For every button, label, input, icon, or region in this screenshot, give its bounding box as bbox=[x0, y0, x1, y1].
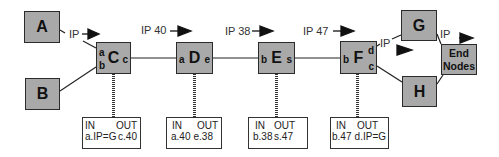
node-end-nodes: End Nodes bbox=[441, 44, 477, 75]
arrow-right-icon bbox=[82, 29, 99, 39]
arrow-right-icon bbox=[170, 26, 191, 36]
arrow-right-icon bbox=[397, 45, 412, 55]
node-g: G bbox=[401, 10, 437, 41]
node-c: C a b c bbox=[96, 42, 131, 74]
edge-a-c-2 bbox=[83, 41, 96, 48]
node-f: F b d c bbox=[340, 41, 377, 74]
arrow-right-icon bbox=[252, 26, 273, 36]
out-header: OUT bbox=[116, 120, 137, 131]
node-label: G bbox=[402, 18, 436, 34]
out-value: s.47 bbox=[274, 131, 293, 142]
node-label: End Nodes bbox=[442, 47, 476, 73]
out-value: d.IP=G bbox=[355, 131, 386, 142]
in-header: IN bbox=[172, 120, 182, 131]
port-a: a bbox=[99, 48, 105, 58]
routing-table-e: IN OUT b.38 s.47 bbox=[248, 117, 308, 149]
out-header: OUT bbox=[274, 120, 295, 131]
node-a: A bbox=[24, 11, 60, 43]
edge-label-d-e: IP 38 bbox=[225, 26, 251, 37]
edge-b-c bbox=[60, 67, 96, 91]
port-a: a bbox=[179, 55, 185, 65]
node-e: E b s bbox=[258, 42, 295, 74]
out-header: OUT bbox=[197, 120, 218, 131]
in-value: b.47 bbox=[332, 131, 351, 142]
node-label: B bbox=[26, 86, 59, 102]
port-b: b bbox=[261, 55, 267, 65]
edge-label-a-c: IP bbox=[69, 29, 79, 40]
port-c: c bbox=[122, 55, 128, 65]
arrow-right-icon bbox=[459, 33, 473, 43]
routing-table-c: IN OUT a.IP=G c.40 bbox=[82, 117, 141, 149]
end-nodes-line1: End bbox=[442, 47, 476, 60]
port-s: s bbox=[286, 55, 292, 65]
node-h: H bbox=[402, 76, 437, 107]
edge-label-c-d: IP 40 bbox=[141, 25, 167, 36]
node-b: B bbox=[25, 78, 60, 110]
end-nodes-line2: Nodes bbox=[442, 60, 476, 73]
port-c: c bbox=[368, 62, 374, 72]
out-value: c.40 bbox=[118, 131, 137, 142]
out-value: e.38 bbox=[194, 131, 213, 142]
edge-h-end bbox=[437, 75, 443, 84]
port-d: d bbox=[368, 46, 374, 56]
edge-label-g-end: IP bbox=[440, 29, 450, 40]
routing-table-d: IN OUT a.40 e.38 bbox=[166, 117, 222, 149]
port-e: e bbox=[204, 55, 210, 65]
edge-label-f-g: IP bbox=[380, 38, 390, 49]
node-d: D a e bbox=[176, 42, 213, 74]
edge-f-g-2 bbox=[392, 35, 401, 39]
in-value: a.IP=G bbox=[85, 131, 116, 142]
in-value: b.38 bbox=[253, 131, 272, 142]
routing-table-f: IN OUT b.47 d.IP=G bbox=[330, 117, 389, 149]
port-b: b bbox=[99, 61, 105, 71]
node-label: H bbox=[403, 84, 436, 100]
in-header: IN bbox=[85, 120, 95, 131]
arrow-right-icon bbox=[333, 26, 354, 36]
edge-a-c bbox=[60, 30, 65, 33]
edge-f-h bbox=[377, 66, 402, 82]
port-b: b bbox=[343, 55, 349, 65]
out-header: OUT bbox=[357, 120, 378, 131]
in-header: IN bbox=[255, 120, 265, 131]
node-label: A bbox=[25, 19, 59, 35]
in-value: a.40 bbox=[171, 131, 190, 142]
in-header: IN bbox=[336, 120, 346, 131]
edge-label-e-f: IP 47 bbox=[303, 26, 329, 37]
